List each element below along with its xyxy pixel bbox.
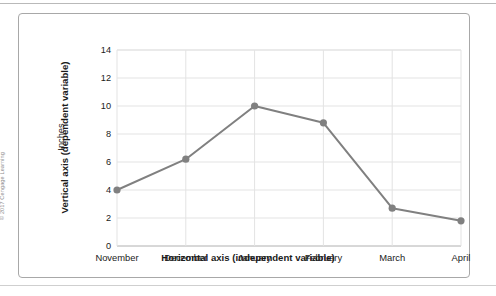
page-top-rule [0, 3, 496, 4]
data-point-marker [251, 102, 258, 109]
y-axis-tick-label: 4 [106, 185, 111, 195]
y-axis-tick-label: 12 [101, 73, 111, 83]
y-axis-tick-label: 0 [106, 241, 111, 251]
plot-area: 02468101214NovemberDecemberJanuaryFebrua… [117, 50, 461, 246]
data-point-marker [182, 156, 189, 163]
x-axis-title: Horizontal axis (independent variable) [0, 252, 496, 263]
y-axis-units-label: Inches [56, 92, 66, 182]
data-point-marker [389, 205, 396, 212]
data-series-line [117, 106, 461, 221]
data-point-marker [320, 119, 327, 126]
y-axis-tick-label: 14 [101, 45, 111, 55]
copyright-attribution: © 2017 Cengage Learning [0, 130, 5, 220]
y-axis-tick-label: 8 [106, 129, 111, 139]
y-axis-tick-label: 6 [106, 157, 111, 167]
figure-panel: Vertical axis (dependent variable) Inche… [18, 13, 470, 278]
line-chart-svg [117, 50, 461, 246]
y-axis-tick-label: 10 [101, 101, 111, 111]
y-axis-tick-label: 2 [106, 213, 111, 223]
page-bottom-rule [0, 285, 496, 286]
data-point-marker [457, 217, 464, 224]
data-point-marker [113, 186, 120, 193]
